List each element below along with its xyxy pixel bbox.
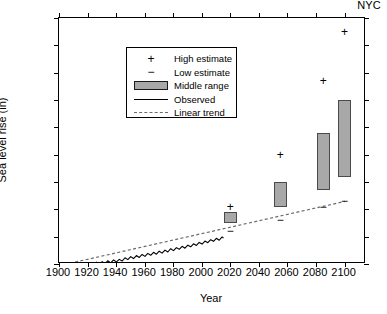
minus-marker: −	[147, 67, 154, 77]
plot-area: +−+−+−+− +High estimate−Low estimateMidd…	[58, 17, 365, 263]
observed-line	[59, 237, 223, 262]
x-tick-top	[88, 13, 89, 18]
y-tick-right	[364, 155, 369, 156]
x-tick-top	[202, 13, 203, 18]
linear-trend-line	[59, 201, 345, 262]
y-tick	[54, 237, 59, 238]
y-tick	[54, 73, 59, 74]
x-tick-label: 1920	[74, 267, 98, 278]
y-tick-right	[364, 45, 369, 46]
sea-level-rise-chart: NYC Sea level rise (in) Year +−+−+−+− +H…	[0, 0, 387, 314]
x-tick-top	[230, 13, 231, 18]
y-tick-right	[364, 209, 369, 210]
low-estimate-marker: −	[341, 195, 348, 207]
x-tick-label: 1960	[131, 267, 155, 278]
high-estimate-marker: +	[341, 26, 348, 38]
y-tick	[54, 45, 59, 46]
x-tick-top	[173, 13, 174, 18]
solid-line-sample	[134, 99, 168, 100]
legend-item: +High estimate	[127, 52, 236, 65]
high-estimate-marker: +	[320, 75, 327, 87]
middle-range-bar	[338, 100, 351, 177]
legend-label: Middle range	[174, 79, 229, 92]
plus-marker: +	[147, 54, 154, 64]
x-tick-top	[316, 13, 317, 18]
x-tick-top	[145, 13, 146, 18]
x-tick-label: 2060	[274, 267, 298, 278]
y-tick-right	[364, 18, 369, 19]
legend-marker: −	[133, 66, 169, 79]
y-tick	[54, 155, 59, 156]
high-estimate-marker: +	[277, 149, 284, 161]
filled-box-swatch	[134, 81, 168, 90]
y-tick-right	[364, 182, 369, 183]
legend-marker: +	[133, 52, 169, 65]
y-tick	[54, 209, 59, 210]
chart-legend: +High estimate−Low estimateMiddle rangeO…	[126, 47, 237, 118]
y-tick-right	[364, 100, 369, 101]
y-tick	[54, 18, 59, 19]
high-estimate-marker: +	[227, 201, 234, 213]
dashed-line-sample	[134, 112, 168, 113]
x-tick-label: 2020	[217, 267, 241, 278]
y-tick-right	[364, 237, 369, 238]
low-estimate-marker: −	[320, 201, 327, 213]
middle-range-bar	[317, 133, 330, 190]
y-tick-right	[364, 264, 369, 265]
legend-item: −Low estimate	[127, 66, 236, 79]
x-tick-top	[259, 13, 260, 18]
y-tick-right	[364, 127, 369, 128]
x-axis-title: Year	[200, 292, 222, 304]
chart-corner-label: NYC	[357, 0, 381, 11]
legend-marker	[133, 79, 169, 92]
middle-range-bar	[274, 182, 287, 207]
legend-item: Linear trend	[127, 106, 236, 119]
y-tick	[54, 182, 59, 183]
legend-item: Observed	[127, 93, 236, 106]
legend-item: Middle range	[127, 79, 236, 92]
legend-label: High estimate	[174, 52, 232, 65]
x-tick-top	[345, 13, 346, 18]
low-estimate-marker: −	[277, 214, 284, 226]
x-tick-top	[59, 13, 60, 18]
middle-range-bar	[224, 212, 237, 223]
legend-marker	[133, 93, 169, 106]
x-tick-label: 1900	[46, 267, 70, 278]
legend-label: Linear trend	[174, 106, 225, 119]
x-tick-label: 2000	[189, 267, 213, 278]
y-tick	[54, 100, 59, 101]
x-tick-label: 1980	[160, 267, 184, 278]
legend-label: Low estimate	[174, 66, 230, 79]
x-tick-label: 2040	[246, 267, 270, 278]
x-tick-label: 2100	[331, 267, 355, 278]
y-tick-right	[364, 73, 369, 74]
legend-marker	[133, 106, 169, 119]
y-axis-title: Sea level rise (in)	[0, 98, 8, 183]
x-tick-top	[287, 13, 288, 18]
low-estimate-marker: −	[227, 225, 234, 237]
x-tick-top	[116, 13, 117, 18]
y-tick	[54, 127, 59, 128]
legend-label: Observed	[174, 93, 215, 106]
x-tick-label: 1940	[103, 267, 127, 278]
x-tick-label: 2080	[303, 267, 327, 278]
